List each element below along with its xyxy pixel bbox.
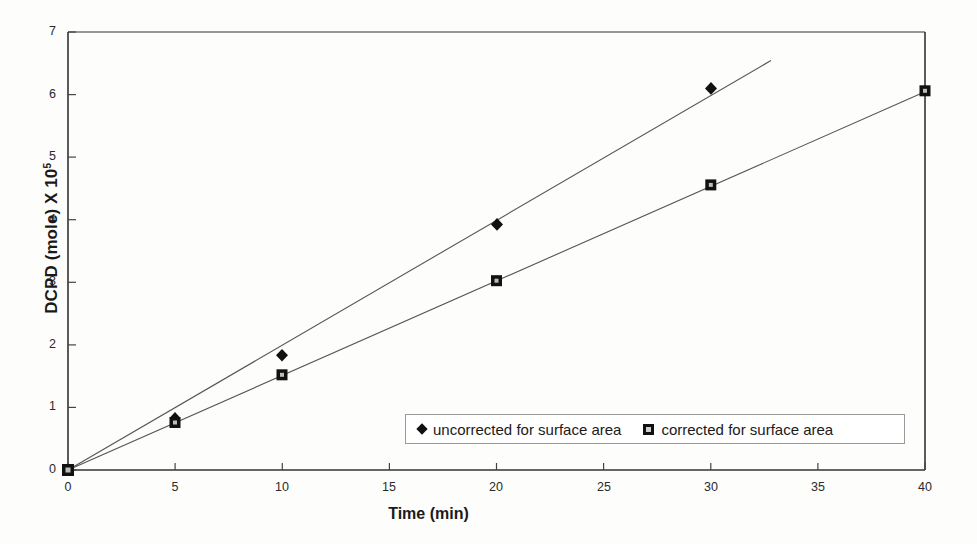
- y-axis-title-text: DCPD (mole) X 10: [42, 169, 61, 314]
- x-tick-label: 40: [910, 481, 940, 494]
- x-tick-label: 5: [160, 481, 190, 494]
- data-point-diamond: [491, 218, 503, 231]
- legend-label: uncorrected for surface area: [433, 421, 621, 438]
- x-tick-marks: [68, 463, 925, 470]
- x-axis-title-text: Time (min): [388, 505, 469, 522]
- x-tick-label: 30: [696, 481, 726, 494]
- y-tick-marks: [68, 32, 76, 470]
- x-tick-label: 25: [589, 481, 619, 494]
- y-tick-label: 1: [30, 400, 56, 413]
- y-tick-label: 7: [30, 25, 56, 38]
- square-marker-icon: [643, 424, 654, 435]
- legend-item-uncorrected: uncorrected for surface area: [418, 421, 621, 438]
- trendline-uncorrected: [68, 61, 771, 471]
- axis-frame: [68, 32, 925, 470]
- y-axis-title: DCPD (mole) X 105: [42, 88, 63, 388]
- y-tick-label: 0: [30, 463, 56, 476]
- x-axis-title: Time (min): [0, 505, 977, 523]
- plot-area: [0, 0, 977, 544]
- chart-figure: 7 6 5 4 3 2 1 0 0 5 10 15 20 25 30 35 40…: [0, 0, 977, 544]
- legend-label: corrected for surface area: [661, 421, 833, 438]
- x-tick-label: 15: [374, 481, 404, 494]
- x-tick-label: 35: [803, 481, 833, 494]
- data-point-diamond: [276, 349, 288, 361]
- x-tick-label: 10: [267, 481, 297, 494]
- legend-item-corrected: corrected for surface area: [643, 421, 833, 438]
- chart-legend: uncorrected for surface area corrected f…: [405, 414, 905, 444]
- y-axis-title-exponent: 5: [42, 163, 53, 169]
- x-tick-label: 0: [53, 481, 83, 494]
- x-tick-label: 20: [481, 481, 511, 494]
- diamond-marker-icon: [416, 423, 427, 434]
